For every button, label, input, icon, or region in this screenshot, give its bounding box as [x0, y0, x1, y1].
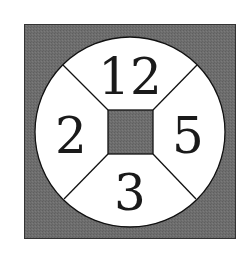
center-square — [108, 110, 153, 154]
sector-label-right: 5 — [172, 107, 204, 165]
sector-label-bottom: 3 — [114, 164, 146, 222]
sector-label-left: 2 — [55, 107, 87, 165]
sector-label-top: 12 — [98, 48, 162, 106]
puzzle-diagram: 12 2 5 3 — [0, 0, 249, 259]
